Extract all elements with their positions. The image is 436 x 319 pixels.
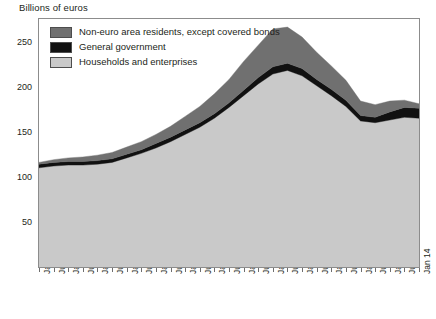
legend-label: Households and enterprises xyxy=(79,57,197,67)
x-tick-mark xyxy=(112,268,113,272)
x-tick-mark xyxy=(54,268,55,272)
x-tick-mark xyxy=(317,268,318,272)
y-tick-label: 250 xyxy=(4,38,32,47)
x-tick-mark xyxy=(390,268,391,272)
x-tick-mark xyxy=(97,268,98,272)
y-tick-label: 100 xyxy=(4,173,32,182)
x-tick-mark xyxy=(171,268,172,272)
x-tick-mark xyxy=(39,268,40,272)
x-tick-label: Jan 14 xyxy=(423,248,432,274)
y-tick-label: 50 xyxy=(4,218,32,227)
legend-swatch-icon xyxy=(50,27,72,38)
legend-swatch-icon xyxy=(50,42,72,53)
x-tick-mark xyxy=(156,268,157,272)
x-tick-mark xyxy=(229,268,230,272)
x-tick-mark xyxy=(361,268,362,272)
legend-label: General government xyxy=(79,42,166,52)
x-tick-mark xyxy=(185,268,186,272)
x-tick-mark xyxy=(258,268,259,272)
y-tick-label: 200 xyxy=(4,83,32,92)
legend-item: General government xyxy=(50,41,280,53)
x-tick-mark xyxy=(83,268,84,272)
x-tick-mark xyxy=(141,268,142,272)
x-tick-mark xyxy=(200,268,201,272)
legend-item: Non-euro area residents, except covered … xyxy=(50,26,280,38)
legend-label: Non-euro area residents, except covered … xyxy=(79,27,280,37)
chart-legend: Non-euro area residents, except covered … xyxy=(50,26,280,68)
x-tick-mark xyxy=(127,268,128,272)
x-tick-mark xyxy=(214,268,215,272)
y-tick-label: 150 xyxy=(4,128,32,137)
x-tick-mark xyxy=(331,268,332,272)
x-tick-mark xyxy=(244,268,245,272)
x-tick-mark xyxy=(375,268,376,272)
x-tick-mark xyxy=(346,268,347,272)
x-tick-mark xyxy=(68,268,69,272)
x-tick-mark xyxy=(287,268,288,272)
legend-swatch-icon xyxy=(50,57,72,68)
x-tick-mark xyxy=(302,268,303,272)
chart-root: Billions of euros 50100150200250 Jan 01J… xyxy=(0,0,436,319)
y-axis-title: Billions of euros xyxy=(19,2,88,13)
x-tick-mark xyxy=(273,268,274,272)
x-tick-mark xyxy=(404,268,405,272)
x-tick-mark xyxy=(419,268,420,272)
legend-item: Households and enterprises xyxy=(50,56,280,68)
